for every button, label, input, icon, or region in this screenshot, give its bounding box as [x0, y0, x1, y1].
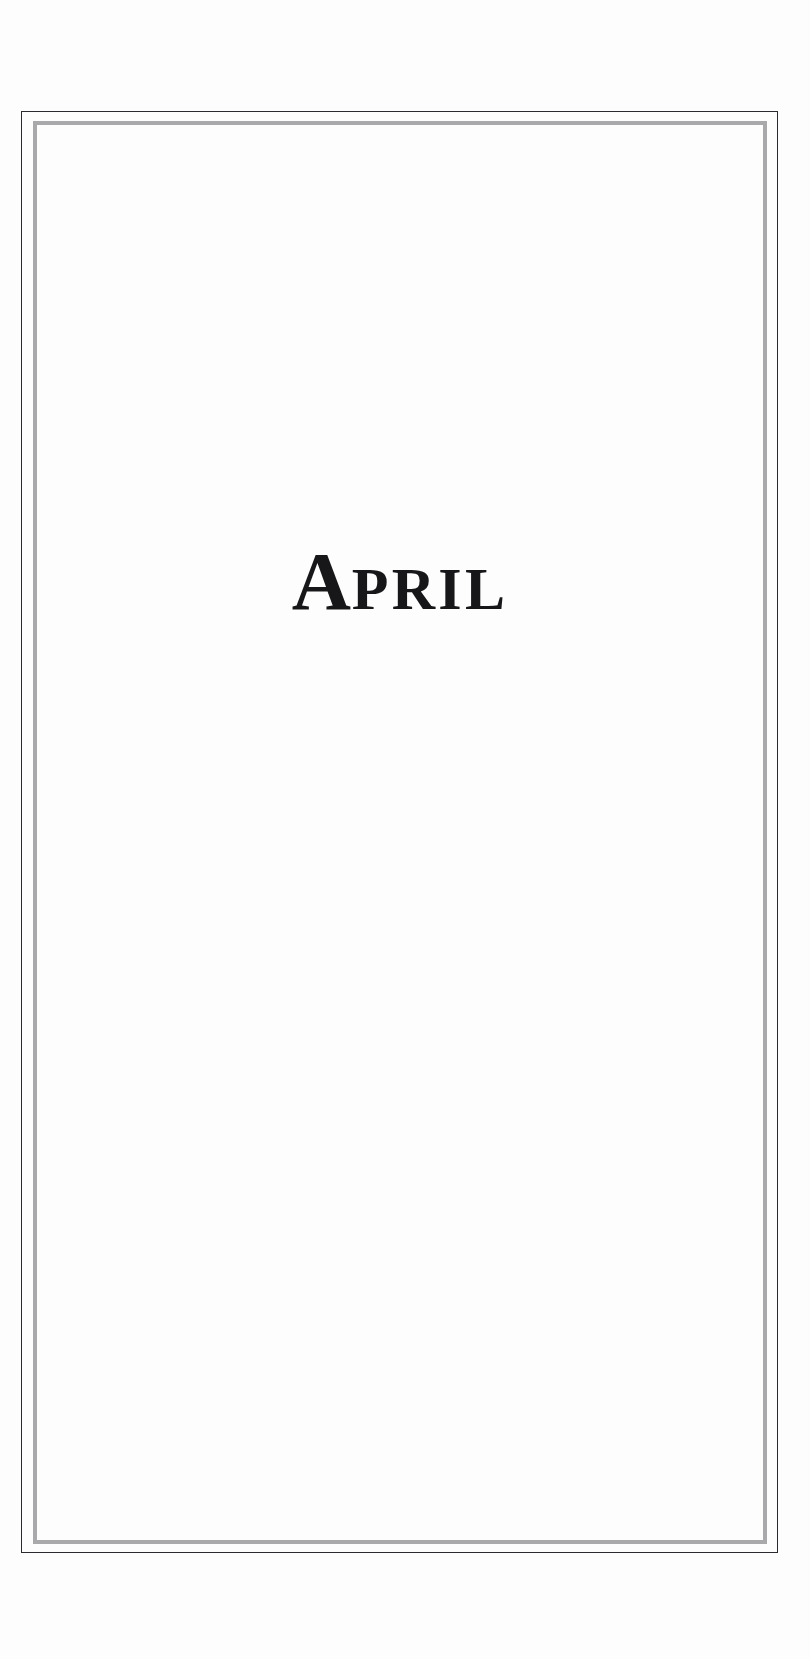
page-title: APRIL — [37, 541, 763, 623]
title-initial-cap: A — [292, 536, 352, 627]
title-small-caps: PRIL — [352, 556, 509, 622]
section-divider-page: APRIL — [0, 0, 810, 1659]
frame-content-area: APRIL — [37, 125, 763, 1540]
month-title-row: APRIL — [37, 520, 763, 610]
